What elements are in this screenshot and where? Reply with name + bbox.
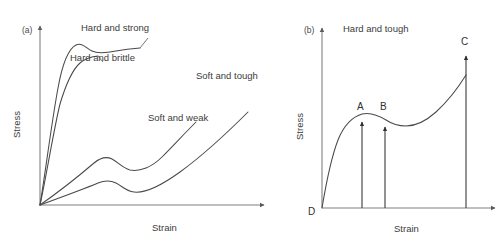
label-point-d: D — [308, 206, 315, 217]
panel-a: (a) Stress Strain Hard and strong Hard a… — [11, 22, 264, 233]
label-hard-and-tough: Hard and tough — [343, 23, 409, 34]
panel-b-label: (b) — [304, 25, 315, 35]
panel-a-y-axis-label: Stress — [11, 111, 22, 138]
curve-soft-and-weak — [40, 122, 196, 205]
figure-canvas: (a) Stress Strain Hard and strong Hard a… — [0, 0, 501, 244]
leader-hard-and-strong — [140, 38, 148, 48]
stress-strain-figure: (a) Stress Strain Hard and strong Hard a… — [0, 0, 501, 244]
label-soft-and-weak: Soft and weak — [148, 112, 208, 123]
panel-b-y-axis-label: Stress — [294, 113, 305, 140]
panel-b: (b) Stress Strain Hard and tough A B C D — [294, 23, 495, 234]
label-point-c: C — [461, 36, 468, 47]
curve-hard-and-tough — [322, 75, 466, 208]
label-soft-and-tough: Soft and tough — [196, 70, 258, 81]
panel-a-label: (a) — [22, 25, 33, 35]
label-hard-and-strong: Hard and strong — [81, 22, 149, 33]
curve-hard-and-brittle — [40, 56, 98, 205]
panel-b-x-axis-label: Strain — [394, 223, 419, 234]
panel-a-x-axis-label: Strain — [152, 222, 177, 233]
label-point-b: B — [380, 101, 387, 112]
label-hard-and-brittle: Hard and brittle — [70, 52, 135, 63]
label-point-a: A — [357, 101, 364, 112]
curve-hard-and-strong — [40, 44, 140, 205]
curve-soft-and-tough — [40, 112, 248, 205]
